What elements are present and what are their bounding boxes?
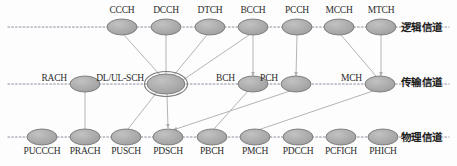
node-label-pbch: PBCH bbox=[200, 146, 224, 156]
node-ellipse bbox=[107, 19, 137, 35]
diagram-canvas bbox=[0, 0, 457, 166]
node-label-pcfich: PCFICH bbox=[325, 146, 357, 156]
edge-dl-ul-sch-to-pusch bbox=[128, 92, 157, 129]
node-ellipse bbox=[151, 19, 181, 35]
edge-ccch-to-dl-ul-sch bbox=[124, 35, 160, 75]
node-label-ccch: CCCH bbox=[109, 5, 134, 15]
node-pcfich[interactable] bbox=[326, 129, 356, 145]
node-ellipse bbox=[240, 129, 270, 145]
node-ellipse bbox=[324, 19, 354, 35]
node-pbch[interactable] bbox=[197, 129, 227, 145]
node-ellipse bbox=[147, 74, 185, 94]
node-label-puccch: PUCCCH bbox=[24, 146, 61, 156]
node-ellipse bbox=[326, 129, 356, 145]
node-ellipse bbox=[195, 19, 225, 35]
node-pch[interactable] bbox=[281, 76, 311, 92]
node-label-bch: BCH bbox=[216, 73, 235, 83]
node-label-dcch: DCCH bbox=[153, 5, 179, 15]
node-ccch[interactable] bbox=[107, 19, 137, 35]
node-label-pmch: PMCH bbox=[242, 146, 268, 156]
node-ellipse bbox=[153, 129, 183, 145]
node-label-pusch: PUSCH bbox=[111, 146, 141, 156]
node-label-dtch: DTCH bbox=[197, 5, 222, 15]
node-mch[interactable] bbox=[365, 76, 395, 92]
edge-mcch-to-mch bbox=[341, 35, 376, 76]
row-label-logical: 逻辑信道 bbox=[401, 19, 442, 34]
edge-mch-to-pmch bbox=[258, 91, 373, 130]
node-label-pcch: PCCH bbox=[285, 5, 309, 15]
edge-pch-to-pdsch bbox=[173, 91, 290, 130]
node-label-pch: PCH bbox=[260, 73, 278, 83]
node-ellipse bbox=[365, 76, 395, 92]
node-label-bcch: BCCH bbox=[240, 5, 265, 15]
node-phich[interactable] bbox=[368, 129, 398, 145]
node-puccch[interactable] bbox=[27, 129, 57, 145]
node-label-mch: MCH bbox=[341, 73, 362, 83]
node-label-dl-ul-sch: DL/UL-SCH bbox=[96, 73, 144, 83]
node-label-pdcch: PDCCH bbox=[283, 146, 314, 156]
node-ellipse bbox=[111, 129, 141, 145]
node-ellipse bbox=[70, 129, 100, 145]
node-ellipse bbox=[368, 129, 398, 145]
edge-dtch-to-dl-ul-sch bbox=[174, 35, 207, 75]
node-ellipse bbox=[281, 76, 311, 92]
node-mtch[interactable] bbox=[366, 19, 396, 35]
edge-pcch-to-pch bbox=[296, 35, 297, 76]
node-label-prach: PRACH bbox=[70, 146, 101, 156]
channel-mapping-diagram: CCCHDCCHDTCHBCCHPCCHMCCHMTCHRACHDL/UL-SC… bbox=[0, 0, 457, 166]
node-prach[interactable] bbox=[70, 129, 100, 145]
node-ellipse bbox=[197, 129, 227, 145]
node-ellipse bbox=[27, 129, 57, 145]
node-pdsch[interactable] bbox=[153, 129, 183, 145]
node-dl-ul-sch[interactable] bbox=[145, 72, 188, 97]
node-label-rach: RACH bbox=[41, 73, 67, 83]
node-pdcch[interactable] bbox=[283, 129, 313, 145]
node-pusch[interactable] bbox=[111, 129, 141, 145]
node-pmch[interactable] bbox=[240, 129, 270, 145]
edge-dl-ul-sch-to-pdsch bbox=[167, 94, 168, 128]
row-label-transport: 传输信道 bbox=[401, 74, 442, 89]
node-label-mtch: MTCH bbox=[368, 5, 395, 15]
node-bcch[interactable] bbox=[238, 19, 268, 35]
row-label-physical: 物理信道 bbox=[401, 129, 442, 144]
node-dtch[interactable] bbox=[195, 19, 225, 35]
node-ellipse bbox=[238, 19, 268, 35]
node-mcch[interactable] bbox=[324, 19, 354, 35]
node-label-phich: PHICH bbox=[369, 146, 397, 156]
node-ellipse bbox=[283, 129, 313, 145]
edge-bcch-to-dl-ul-sch bbox=[180, 35, 249, 82]
node-pcch[interactable] bbox=[282, 19, 312, 35]
node-ellipse bbox=[366, 19, 396, 35]
node-label-pdsch: PDSCH bbox=[153, 146, 183, 156]
node-ellipse bbox=[282, 19, 312, 35]
node-label-mcch: MCCH bbox=[325, 5, 352, 15]
edge-bch-to-pbch bbox=[214, 91, 248, 129]
node-dcch[interactable] bbox=[151, 19, 181, 35]
